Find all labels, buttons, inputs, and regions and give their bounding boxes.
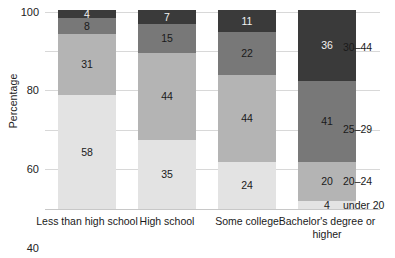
y-axis-tick-label: 60	[27, 163, 39, 175]
bar-segment[interactable]: 35	[138, 140, 196, 209]
bar-segment-value: 11	[242, 16, 253, 27]
bar-segment[interactable]: 7	[138, 10, 196, 24]
bar-segment[interactable]: 4	[58, 10, 116, 18]
bar-segment[interactable]: 41	[298, 81, 356, 162]
bar-segment[interactable]: 24	[218, 162, 276, 209]
bar-segment[interactable]: 44	[218, 75, 276, 162]
bar-segment-value: 22	[241, 48, 253, 59]
plot-area: 020406080100583184Less than high school3…	[45, 12, 380, 209]
stacked-bar-chart: Percentage 020406080100583184Less than h…	[0, 0, 395, 258]
legend-label: 30–44	[343, 41, 372, 53]
bar-segment[interactable]: 58	[58, 95, 116, 209]
bar-segment-value: 41	[321, 116, 333, 127]
bar-segment[interactable]: 15	[138, 24, 196, 54]
y-axis-title: Percentage	[7, 41, 19, 161]
bar-segment[interactable]: 31	[58, 34, 116, 95]
legend-label: under 20	[343, 199, 384, 211]
bar-segment-value: 7	[164, 12, 170, 23]
bar-segment-value: 31	[81, 59, 93, 70]
bar-segment-value: 20	[321, 176, 333, 187]
y-axis-tick-label: 80	[27, 84, 39, 96]
bar-segment[interactable]: 22	[218, 32, 276, 75]
bar-segment[interactable]: 44	[138, 53, 196, 140]
bar-segment-value: 44	[161, 91, 173, 102]
bar-segment-value: 44	[241, 113, 253, 124]
y-axis-tick-label: 40	[27, 242, 39, 254]
bar-segment-value: 8	[84, 21, 90, 32]
bar-segment-value: 24	[241, 180, 253, 191]
bar-segment[interactable]: 8	[58, 18, 116, 34]
bar-segment-value: 4	[324, 200, 330, 211]
legend-label: 20–24	[343, 175, 372, 187]
y-axis-tick-label: 100	[21, 6, 39, 18]
legend-label: 25–29	[343, 123, 372, 135]
bar-segment-value: 35	[161, 169, 173, 180]
bar-segment-value: 36	[321, 40, 333, 51]
bar-2[interactable]: 3544157	[138, 12, 196, 209]
bar-3[interactable]: 24442211	[218, 12, 276, 209]
bar-segment-value: 15	[161, 33, 173, 44]
bar-segment-value: 58	[81, 147, 93, 158]
x-axis-category-label: Bachelor's degree or higher	[268, 215, 386, 241]
bar-1[interactable]: 583184	[58, 12, 116, 209]
bar-segment[interactable]: 11	[218, 10, 276, 32]
bar-segment-value: 4	[84, 9, 90, 20]
